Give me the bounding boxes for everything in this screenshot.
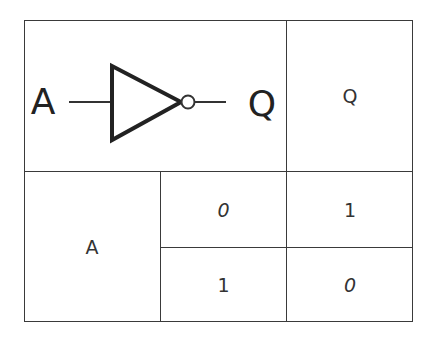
output-column-header: Q [287, 20, 413, 171]
row-2-output-value: 0 [287, 248, 413, 322]
row-2-input-value: 1 [161, 248, 286, 322]
input-row-header: A [24, 172, 160, 322]
row-1-output-value: 1 [287, 172, 413, 247]
row-1-input-value: 0 [161, 172, 286, 247]
